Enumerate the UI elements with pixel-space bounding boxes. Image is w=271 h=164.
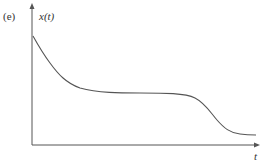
panel-label: (e) <box>3 10 16 23</box>
y-axis-arrow-icon <box>30 3 35 9</box>
y-axis-label: x(t) <box>38 10 55 23</box>
x-axis <box>32 143 260 148</box>
x-axis-label: t <box>254 150 258 162</box>
chart: (e) x(t) t <box>0 0 271 164</box>
y-axis <box>30 3 35 145</box>
x-axis-arrow-icon <box>254 143 260 148</box>
series-line-x-t <box>33 36 256 135</box>
